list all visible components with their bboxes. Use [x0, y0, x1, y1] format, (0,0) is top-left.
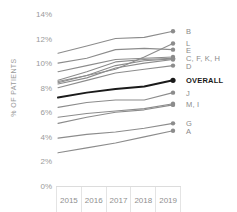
series-line	[58, 59, 173, 84]
series-line	[58, 48, 173, 63]
y-axis-title: % OF PATIENTS	[10, 53, 17, 123]
y-axis-tick-labels: 0%2%4%6%8%10%12%14%	[22, 0, 52, 212]
y-axis-tick: 4%	[40, 132, 52, 141]
y-axis-tick: 8%	[40, 83, 52, 92]
legend-item: B	[186, 27, 191, 36]
series-line	[58, 104, 173, 118]
series-endpoint-dot	[170, 78, 175, 83]
series-lines	[56, 14, 181, 186]
series-endpoint-dot	[171, 47, 175, 51]
y-axis-tick: 12%	[36, 34, 52, 43]
y-axis-tick: 0%	[40, 182, 52, 191]
x-axis-tick: 2019	[156, 187, 181, 212]
x-axis-tick: 2016	[82, 187, 107, 212]
series-endpoint-dot	[171, 41, 175, 45]
chart-legend: BLEC, F, K, HDOVERALLJM, IGA	[186, 0, 237, 212]
series-line	[58, 131, 173, 153]
legend-item: D	[186, 61, 192, 70]
series-endpoint-dot	[171, 90, 175, 94]
series-endpoint-dot	[171, 29, 175, 33]
legend-item: M, I	[186, 100, 199, 109]
series-endpoint-dot	[171, 121, 175, 125]
x-axis-tick: 2015	[56, 187, 82, 212]
series-endpoint-dot	[171, 63, 175, 67]
legend-item: OVERALL	[186, 76, 223, 85]
series-line	[58, 123, 173, 138]
series-endpoint-dot	[171, 103, 175, 107]
series-endpoint-dot	[171, 57, 175, 61]
plot-area	[56, 14, 181, 186]
x-axis-tick: 2018	[131, 187, 156, 212]
x-axis-tick: 2017	[107, 187, 132, 212]
y-axis-tick: 2%	[40, 157, 52, 166]
y-axis-tick: 10%	[36, 59, 52, 68]
x-axis-tick-labels: 20152016201720182019	[56, 186, 181, 212]
legend-item: J	[186, 88, 190, 97]
series-line	[58, 105, 173, 123]
y-axis-tick: 6%	[40, 108, 52, 117]
legend-item: A	[186, 126, 191, 135]
series-endpoint-dot	[171, 129, 175, 133]
line-chart: % OF PATIENTS 0%2%4%6%8%10%12%14% 201520…	[0, 0, 237, 212]
y-axis-tick: 14%	[36, 10, 52, 19]
